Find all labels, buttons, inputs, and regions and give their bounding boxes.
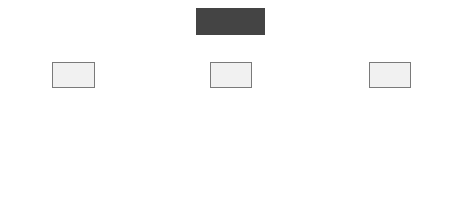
tier1-supplier-node-left — [52, 62, 95, 88]
supply-chain-diagram — [0, 0, 464, 223]
outsourcing-firm-node — [196, 8, 265, 35]
tier1-supplier-node-right — [369, 62, 411, 88]
tier1-supplier-node-middle — [210, 62, 252, 88]
